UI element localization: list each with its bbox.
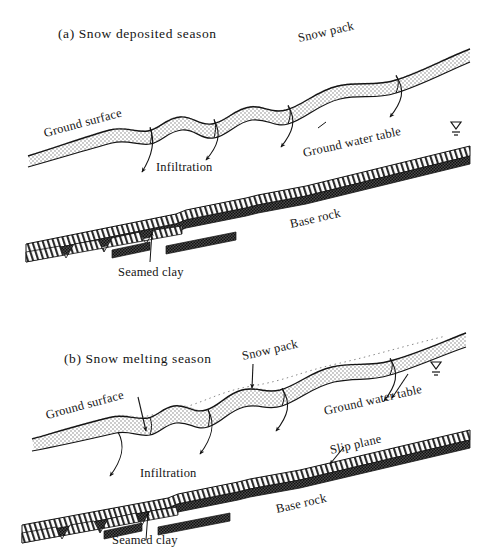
snow-pack-arrow-b (252, 364, 253, 388)
water-table-symbol-a (448, 120, 464, 138)
water-table-symbol-b (428, 360, 444, 378)
water-table-tick-a (318, 122, 326, 128)
panel-b-title: (b) Snow melting season (64, 351, 212, 367)
panel-a-title: (a) Snow deposited season (58, 26, 217, 42)
base-rock-hatch-b (22, 430, 470, 535)
panel-a-label-seamed-clay: Seamed clay (118, 265, 184, 280)
panel-b-label-infiltration: Infiltration (140, 466, 197, 481)
panel-b-label-seamed-clay: Seamed clay (112, 533, 178, 548)
base-rock-hatch-a (26, 146, 470, 254)
panel-a-label-infiltration: Infiltration (156, 160, 213, 175)
panel-a-graphics (26, 48, 470, 262)
